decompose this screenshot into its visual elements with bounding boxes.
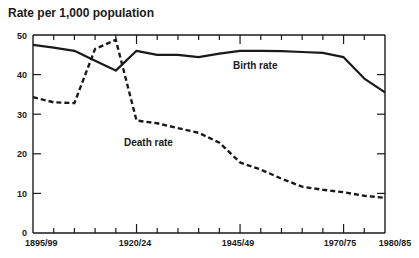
x-tick-1920-24: 1920/24 [119,238,152,248]
y-tick-20: 20 [17,149,27,159]
y-tick-40: 40 [17,70,27,80]
birth-rate-label: Birth rate [233,60,278,71]
y-tick-0: 0 [22,228,27,238]
x-tick-1980-85: 1980/85 [379,238,412,248]
plot-frame [33,35,385,233]
x-axis-labels: 1895/99 1920/24 1945/49 1970/75 1980/85 [25,238,411,248]
axis-ticks [33,35,385,233]
y-tick-50: 50 [17,31,27,41]
y-tick-10: 10 [17,189,27,199]
birth-rate-line [33,45,385,93]
x-tick-1970-75: 1970/75 [324,238,357,248]
y-axis-labels: 0 10 20 30 40 50 [17,31,27,238]
x-tick-1895-99: 1895/99 [25,238,58,248]
death-rate-line [33,40,385,198]
x-tick-1945-49: 1945/49 [222,238,255,248]
death-rate-label: Death rate [124,137,173,148]
line-chart: 0 10 20 30 40 50 1895/99 1920/24 1945/49… [0,0,419,258]
y-tick-30: 30 [17,110,27,120]
